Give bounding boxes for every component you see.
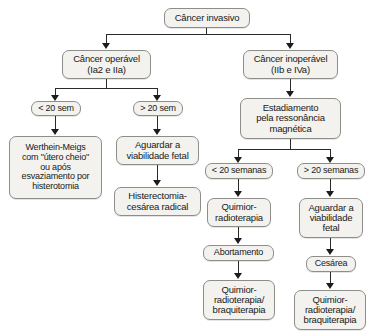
arrow-to-aguardar-right: [326, 191, 334, 197]
arrow-to-operavel: [102, 43, 110, 49]
node-abortamento: Abortamento: [203, 245, 274, 261]
arrow-to-cesarea: [326, 249, 334, 255]
connector-gt20sem-stem: [157, 116, 158, 130]
arrow-to-werthein: [51, 129, 59, 135]
arrow-to-quimior-radioterapia: [234, 191, 242, 197]
arrow-to-inoperavel: [286, 43, 294, 49]
node-quimior-radioterapia: Quimior- radioterapia: [207, 198, 271, 227]
node-histerectomia-cesarea-radical: Histerectomia- cesárea radical: [114, 187, 201, 216]
node-quimior-radioterapia-braquiterapia-right: Quimior- radioterapia/ braquiterapia: [294, 290, 366, 330]
connector-estadiamento-bus: [238, 149, 331, 150]
arrow-to-abortamento: [234, 238, 242, 244]
connector-root-bus: [106, 34, 290, 35]
node-estadiamento: Estadiamento pela ressonância magnética: [240, 98, 341, 139]
connector-operavel-bus: [55, 88, 158, 89]
node-gt-20-semanas: > 20 semanas: [297, 163, 365, 179]
connector-estadiamento-stem: [290, 139, 291, 149]
arrow-to-histerectomia: [153, 180, 161, 186]
node-quimior-radioterapia-braquiterapia-left: Quimior- radioterapia/ braquiterapia: [203, 280, 275, 320]
node-cancer-invasivo: Câncer invasivo: [164, 8, 250, 28]
arrow-to-quimior-braqui-right: [326, 283, 334, 289]
node-aguardar-viabilidade-fetal-right: Aguardar a viabilidade fetal: [299, 198, 363, 238]
node-gt-20-sem: > 20 sem: [133, 101, 183, 116]
arrow-to-aguardar-left: [153, 129, 161, 135]
node-cesarea: Cesárea: [306, 256, 356, 272]
connector-operavel-stem: [106, 79, 107, 88]
node-cancer-operavel: Câncer operável (Ia2 e IIa): [62, 50, 151, 79]
arrow-to-quimior-braqui-left: [234, 273, 242, 279]
connector-aguardar-left-stem: [157, 165, 158, 181]
node-cancer-inoperavel: Câncer inoperável (IIb e IVa): [243, 50, 338, 79]
node-werthein-meigs: Werthein-Meigs com "útero cheio" ou após…: [9, 136, 102, 199]
arrow-to-estadiamento: [286, 91, 294, 97]
node-aguardar-viabilidade-fetal-left: Aguardar a viabilidade fetal: [116, 136, 199, 165]
node-lt-20-semanas: < 20 semanas: [205, 163, 273, 179]
node-lt-20-sem: < 20 sem: [31, 101, 81, 116]
connector-lt20sem-stem: [55, 116, 56, 130]
flowchart-diagram: Câncer invasivo Câncer operável (Ia2 e I…: [0, 0, 374, 332]
